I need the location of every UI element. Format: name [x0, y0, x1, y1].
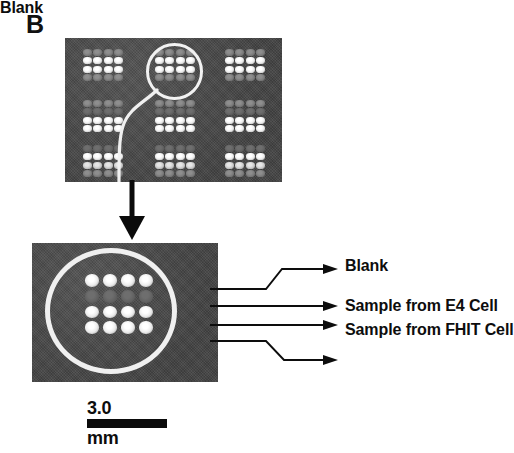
- leader-blank-top: [210, 264, 338, 289]
- callout-label-fhit: Sample from FHIT Cell: [345, 322, 514, 338]
- scale-bar-unit: mm: [87, 429, 175, 448]
- array-spot: [104, 108, 113, 115]
- array-spot: [93, 162, 102, 169]
- spot-block: [225, 100, 265, 132]
- panel-connector-arrow: [112, 180, 152, 242]
- array-spot: [93, 145, 102, 152]
- array-spot: [155, 153, 164, 160]
- array-spot: [104, 153, 113, 160]
- spot-block: [225, 145, 265, 177]
- spot-block: [155, 145, 195, 177]
- array-spot: [103, 290, 117, 303]
- array-spot: [186, 162, 195, 169]
- overview-highlight-circle: [146, 43, 203, 100]
- array-spot: [165, 125, 174, 132]
- array-spot: [114, 100, 123, 107]
- array-spot: [114, 162, 123, 169]
- scale-bar-value: 3.0: [87, 399, 175, 418]
- array-spot: [225, 100, 234, 107]
- array-spot: [83, 108, 92, 115]
- array-spot: [104, 162, 113, 169]
- array-spot: [104, 66, 113, 73]
- array-spot: [114, 49, 123, 56]
- spot-block: [83, 100, 123, 132]
- array-spot: [225, 66, 234, 73]
- array-spot: [104, 57, 113, 64]
- array-spot: [235, 153, 244, 160]
- array-spot: [83, 74, 92, 81]
- array-spot: [186, 153, 195, 160]
- array-spot: [235, 108, 244, 115]
- array-spot: [225, 170, 234, 177]
- array-spot: [225, 145, 234, 152]
- array-spot: [246, 145, 255, 152]
- array-spot: [104, 170, 113, 177]
- array-spot: [176, 125, 185, 132]
- array-spot: [235, 57, 244, 64]
- array-spot: [225, 162, 234, 169]
- array-spot: [256, 145, 265, 152]
- array-spot: [155, 108, 164, 115]
- array-spot: [235, 145, 244, 152]
- array-spot: [165, 153, 174, 160]
- array-spot: [186, 108, 195, 115]
- spot-block: [155, 100, 195, 132]
- array-spot: [114, 74, 123, 81]
- spot-block: [225, 49, 265, 81]
- array-spot: [225, 74, 234, 81]
- callout-label-blank-bottom: Blank: [0, 0, 43, 16]
- array-spot: [235, 162, 244, 169]
- array-spot: [121, 306, 135, 319]
- array-spot: [114, 125, 123, 132]
- array-spot: [103, 274, 117, 287]
- array-spot: [246, 100, 255, 107]
- array-spot: [235, 117, 244, 124]
- array-spot: [246, 74, 255, 81]
- array-spot: [186, 170, 195, 177]
- callout-leader-lines: [210, 248, 340, 368]
- array-spot: [165, 170, 174, 177]
- array-spot: [246, 57, 255, 64]
- array-spot: [85, 274, 99, 287]
- array-spot: [104, 125, 113, 132]
- leader-e4: [210, 301, 338, 311]
- array-spot: [121, 321, 135, 334]
- array-spot: [246, 125, 255, 132]
- array-spot: [225, 49, 234, 56]
- array-spot: [93, 100, 102, 107]
- array-spot: [246, 117, 255, 124]
- array-spot: [83, 49, 92, 56]
- array-spot: [103, 321, 117, 334]
- array-spot: [235, 170, 244, 177]
- array-spot: [114, 108, 123, 115]
- array-spot: [176, 108, 185, 115]
- array-spot: [246, 153, 255, 160]
- array-spot: [83, 162, 92, 169]
- scale-bar-rule: [87, 419, 167, 428]
- array-spot: [256, 66, 265, 73]
- array-spot: [186, 117, 195, 124]
- array-spot: [176, 170, 185, 177]
- leader-blank-bottom: [210, 341, 338, 365]
- array-spot: [83, 170, 92, 177]
- array-spot: [103, 306, 117, 319]
- array-spot: [235, 49, 244, 56]
- array-spot: [114, 66, 123, 73]
- array-spot: [114, 153, 123, 160]
- callout-label-e4: Sample from E4 Cell: [345, 298, 498, 314]
- array-spot: [114, 170, 123, 177]
- array-spot: [246, 162, 255, 169]
- array-spot: [139, 306, 153, 319]
- array-spot: [246, 108, 255, 115]
- array-spot: [93, 66, 102, 73]
- array-spot: [83, 117, 92, 124]
- array-spot: [93, 117, 102, 124]
- array-spot: [256, 100, 265, 107]
- array-spot: [93, 49, 102, 56]
- microarray-magnified-panel: [32, 243, 218, 382]
- leader-fhit: [210, 320, 338, 330]
- array-spot: [121, 290, 135, 303]
- array-spot: [225, 57, 234, 64]
- array-spot: [246, 66, 255, 73]
